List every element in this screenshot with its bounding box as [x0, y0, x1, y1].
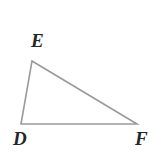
vertex-label-e: E — [31, 31, 44, 50]
triangle-outline — [21, 61, 137, 124]
vertex-label-d: D — [13, 129, 27, 148]
vertex-label-f: F — [135, 129, 148, 148]
figure-canvas: E D F — [0, 0, 164, 158]
